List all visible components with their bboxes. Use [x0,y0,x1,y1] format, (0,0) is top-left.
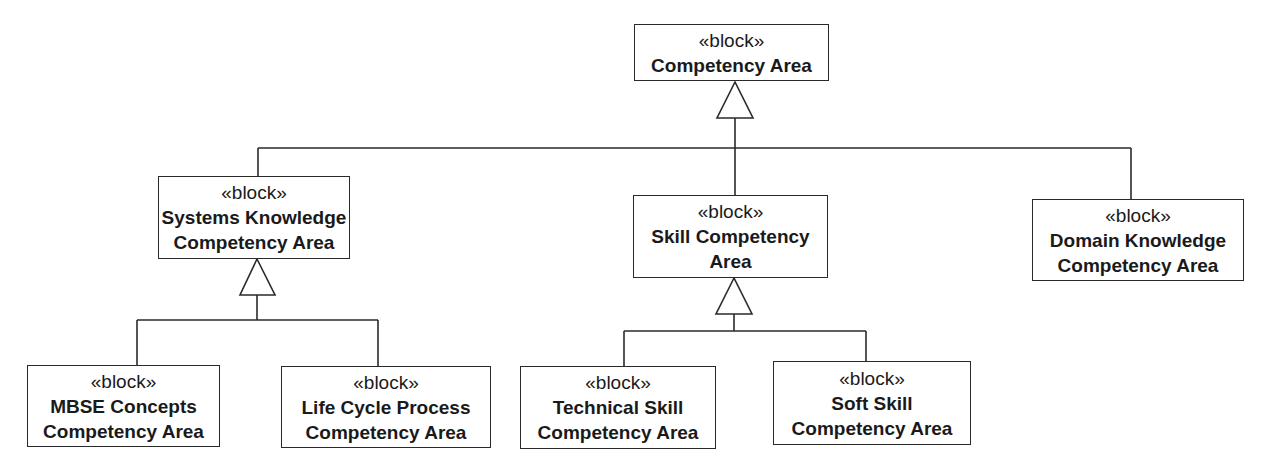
stereotype-label: «block» [91,369,157,394]
block-name-line-2: Competency Area [174,230,335,255]
stereotype-label: «block» [698,199,764,224]
generalization-arrowhead-systems [240,259,275,295]
block-life-cycle-process[interactable]: «block» Life Cycle Process Competency Ar… [281,366,491,448]
block-systems-knowledge[interactable]: «block» Systems Knowledge Competency Are… [158,176,350,259]
block-name-line-2: Competency Area [538,420,699,445]
block-name-line-2: Competency Area [306,420,467,445]
block-name-line-1: Skill Competency [651,224,809,249]
block-name-line-1: Soft Skill [831,391,912,416]
block-name: Competency Area [651,53,812,78]
stereotype-label: «block» [585,370,651,395]
generalization-arrowhead-skill [716,278,752,314]
block-mbse-concepts[interactable]: «block» MBSE Concepts Competency Area [27,365,220,447]
block-name-line-1: Life Cycle Process [302,395,471,420]
generalization-arrowhead-root [717,82,753,118]
block-name-line-2: Competency Area [43,419,204,444]
block-name-line-2: Area [709,249,751,274]
block-name-line-1: Systems Knowledge [162,205,347,230]
block-name-line-2: Competency Area [792,416,953,441]
stereotype-label: «block» [1105,203,1171,228]
block-technical-skill[interactable]: «block» Technical Skill Competency Area [520,366,716,449]
block-competency-area[interactable]: «block» Competency Area [634,24,829,81]
stereotype-label: «block» [839,366,905,391]
block-skill-competency[interactable]: «block» Skill Competency Area [633,195,828,278]
block-name-line-2: Competency Area [1058,253,1219,278]
block-domain-knowledge[interactable]: «block» Domain Knowledge Competency Area [1032,199,1244,281]
block-soft-skill[interactable]: «block» Soft Skill Competency Area [773,361,971,445]
stereotype-label: «block» [353,370,419,395]
block-name-line-1: Domain Knowledge [1050,228,1226,253]
stereotype-label: «block» [699,28,765,53]
block-name-line-1: MBSE Concepts [50,394,197,419]
stereotype-label: «block» [221,180,287,205]
block-name-line-1: Technical Skill [553,395,684,420]
